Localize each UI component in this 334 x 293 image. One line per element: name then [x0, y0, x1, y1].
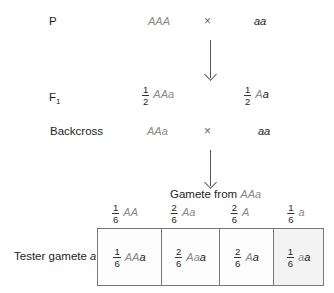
cross-symbol-backcross: ×: [204, 124, 211, 138]
row-label-p: P: [49, 15, 57, 27]
p-parent2-genotype: aa: [254, 15, 266, 27]
tester-gamete-label: Tester gamete a: [14, 250, 96, 262]
offspring-cell-1: 16AAa: [98, 229, 162, 285]
backcross-parent1-genotype: AAa: [147, 125, 168, 137]
gamete-header-genotype: AAa: [240, 188, 261, 200]
fraction: 1 2: [142, 85, 149, 106]
fraction: 1 2: [244, 85, 251, 106]
backcross-parent2-genotype: aa: [258, 125, 270, 137]
cross-symbol-p: ×: [204, 14, 211, 28]
tester-allele: a: [90, 250, 96, 262]
genotype: AAa: [153, 88, 174, 100]
gamete-column-4: 16a: [287, 203, 304, 224]
offspring-table: 16AAa 26Aaa 26Aa 16aa: [97, 228, 324, 286]
f1-offspring-1: 1 2 AAa: [142, 85, 174, 106]
f1-subscript: 1: [56, 97, 60, 106]
arrowhead-1: [204, 68, 217, 81]
gamete-column-2: 26Aa: [171, 203, 196, 224]
gamete-column-1: 16AA: [112, 203, 138, 224]
genotype-parent-allele: A: [255, 88, 262, 100]
genotype-tester-allele: a: [263, 88, 269, 100]
arrowhead-2: [204, 176, 217, 189]
gamete-header: Gamete from AAa: [170, 188, 261, 200]
p-parent1-genotype: AAA: [148, 15, 170, 27]
gamete-column-3: 26A: [231, 203, 250, 224]
row-label-f1: F1: [49, 91, 60, 106]
f1-offspring-2: 1 2 Aa: [244, 85, 269, 106]
row-label-backcross: Backcross: [50, 125, 103, 137]
f1-label: F: [49, 91, 56, 103]
offspring-cell-3: 26Aa: [220, 229, 274, 285]
offspring-cell-2: 26Aaa: [162, 229, 220, 285]
offspring-cell-4: 16aa: [274, 229, 323, 285]
